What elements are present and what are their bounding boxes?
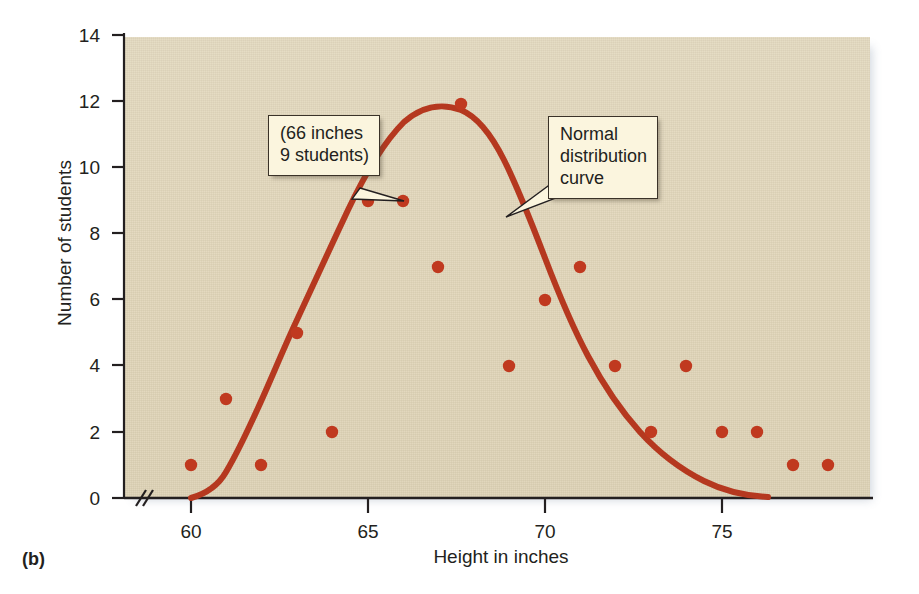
x-tick-label-60: 60 (161, 521, 221, 543)
data-point (787, 459, 799, 471)
data-point (255, 459, 267, 471)
y-axis-title: Number of students (54, 118, 76, 368)
data-point (432, 261, 444, 273)
x-axis-ticks (191, 498, 722, 513)
y-axis-ticks (112, 35, 124, 498)
callout-leader-point (352, 188, 404, 201)
data-point (455, 98, 467, 110)
x-tick-label-70: 70 (515, 521, 575, 543)
data-point (609, 360, 621, 372)
x-tick-label-65: 65 (338, 521, 398, 543)
x-axis-title: Height in inches (336, 546, 666, 568)
data-point (822, 459, 834, 471)
y-tick-label-2: 2 (60, 422, 100, 444)
callout-normal-curve: Normal distribution curve (548, 116, 658, 199)
data-point (326, 426, 338, 438)
y-tick-label-14: 14 (60, 25, 100, 47)
data-point (751, 426, 763, 438)
data-point (291, 327, 303, 339)
data-point (220, 393, 232, 405)
figure-container: 14 12 10 8 6 4 2 0 60 65 70 75 Number of… (0, 0, 919, 594)
data-point (185, 459, 197, 471)
data-point (503, 360, 515, 372)
chart-plot-area (0, 0, 919, 594)
data-point (680, 360, 692, 372)
data-point (574, 261, 586, 273)
x-tick-label-75: 75 (692, 521, 752, 543)
panel-letter: (b) (22, 549, 45, 570)
data-point (539, 294, 551, 306)
y-tick-label-0: 0 (60, 488, 100, 510)
data-point (645, 426, 657, 438)
callout-data-point: (66 inches 9 students) (268, 115, 380, 176)
data-point (716, 426, 728, 438)
y-tick-label-12: 12 (60, 91, 100, 113)
